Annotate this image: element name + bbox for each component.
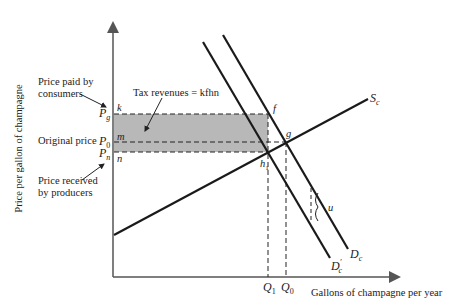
point-f: f [273, 103, 276, 115]
point-h: h1 [260, 158, 269, 174]
demand-label: Dc [350, 248, 362, 265]
demand-shifted-label: D′c [331, 257, 342, 277]
price-paid-label-2: consumers [38, 88, 83, 100]
tax-revenues-label: Tax revenues = kfhn [133, 87, 219, 99]
tax-revenue-area [114, 114, 268, 152]
point-n: n [117, 153, 122, 165]
y-axis-label: Price per gallon of champagne [13, 69, 24, 229]
q0-label: Q0 [281, 281, 294, 298]
original-price-label: Original price [38, 135, 97, 147]
price-paid-label-1: Price paid by [38, 76, 93, 88]
supply-label: Sc [370, 92, 380, 109]
label-u: u [328, 202, 333, 214]
price-received-label-1: Price received [38, 175, 98, 187]
price-received-label-2: by producers [38, 187, 93, 199]
x-axis-label: Gallons of champagne per year [311, 287, 442, 299]
point-g: g [286, 128, 291, 140]
pg-label: Pg [99, 107, 110, 124]
tax-incidence-diagram [0, 0, 452, 303]
q1-label: Q1 [263, 281, 276, 298]
point-m: m [117, 131, 125, 143]
point-k: k [117, 102, 122, 114]
pn-label: Pn [99, 147, 110, 164]
